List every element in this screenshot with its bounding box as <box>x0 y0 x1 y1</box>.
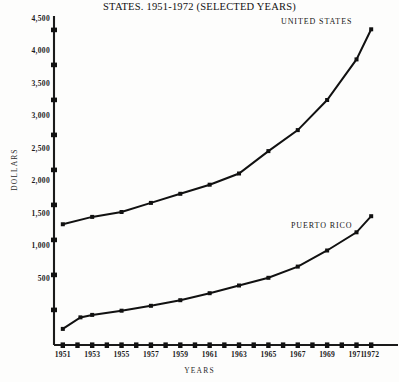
x-tick-mark <box>354 342 358 348</box>
x-tick-label: 1967 <box>283 350 313 359</box>
x-tick-mark <box>163 342 167 348</box>
x-tick-mark <box>281 342 285 348</box>
series-line-puerto-rico <box>63 216 371 329</box>
x-tick-mark <box>119 342 123 348</box>
x-axis-title: YEARS <box>0 366 399 375</box>
data-point-marker <box>369 27 373 31</box>
y-axis-title: DOLLARS <box>10 140 19 200</box>
x-tick-mark <box>149 342 153 348</box>
x-tick-mark <box>237 342 241 348</box>
y-tick-mark <box>51 203 57 208</box>
x-tick-mark <box>340 342 344 348</box>
x-tick-mark <box>90 342 94 348</box>
x-tick-mark <box>222 342 226 348</box>
data-point-marker <box>296 128 300 132</box>
x-tick-label: 1957 <box>136 350 166 359</box>
y-tick-mark <box>51 308 57 313</box>
data-point-marker <box>296 265 300 269</box>
x-tick-mark <box>296 342 300 348</box>
data-point-marker <box>120 210 124 214</box>
data-point-marker <box>208 291 212 295</box>
y-tick-mark <box>51 28 57 33</box>
data-point-marker <box>149 304 153 308</box>
x-tick-label: 1955 <box>107 350 137 359</box>
data-point-marker <box>78 315 82 319</box>
y-tick-mark <box>51 168 57 173</box>
data-point-marker <box>61 327 65 331</box>
x-tick-mark <box>178 342 182 348</box>
series-line-united-states <box>63 29 371 224</box>
data-point-marker <box>90 313 94 317</box>
data-point-marker <box>355 57 359 61</box>
data-point-marker <box>149 201 153 205</box>
y-tick-mark <box>51 63 57 68</box>
series-annotation-puerto-rico: PUERTO RICO <box>291 221 353 230</box>
data-point-marker <box>237 284 241 288</box>
data-point-marker <box>325 249 329 253</box>
series-annotation-united-states: UNITED STATES <box>281 17 352 26</box>
series-markers-united-states <box>61 27 373 226</box>
plot-area <box>0 0 399 382</box>
x-tick-label: 1961 <box>195 350 225 359</box>
x-tick-mark <box>369 342 373 348</box>
x-tick-label: 1953 <box>77 350 107 359</box>
data-point-marker <box>178 192 182 196</box>
data-point-marker <box>61 222 65 226</box>
y-tick-mark <box>51 273 57 278</box>
data-point-marker <box>90 215 94 219</box>
data-point-marker <box>178 298 182 302</box>
x-tick-mark <box>325 342 329 348</box>
data-point-marker <box>208 183 212 187</box>
chart-page: STATES. 1951-1972 (SELECTED YEARS) 4,500… <box>0 0 399 382</box>
x-tick-mark <box>75 342 79 348</box>
x-tick-mark <box>310 342 314 348</box>
data-point-marker <box>266 149 270 153</box>
y-tick-mark <box>51 238 57 243</box>
data-point-marker <box>120 309 124 313</box>
x-tick-label: 1965 <box>253 350 283 359</box>
y-tick-mark <box>51 133 57 138</box>
y-tick-mark <box>51 98 57 103</box>
x-tick-mark <box>252 342 256 348</box>
x-tick-mark <box>193 342 197 348</box>
x-tick-mark <box>61 342 65 348</box>
data-point-marker <box>266 276 270 280</box>
data-point-marker <box>369 214 373 218</box>
x-tick-label: 1969 <box>312 350 342 359</box>
x-tick-mark <box>266 342 270 348</box>
x-tick-mark <box>105 342 109 348</box>
x-tick-label: 1963 <box>224 350 254 359</box>
x-tick-label: 1951 <box>48 350 78 359</box>
data-point-marker <box>237 172 241 176</box>
x-tick-mark <box>207 342 211 348</box>
x-tick-mark <box>134 342 138 348</box>
x-tick-label: 1972 <box>356 350 386 359</box>
data-point-marker <box>355 230 359 234</box>
x-tick-label: 1959 <box>165 350 195 359</box>
data-point-marker <box>325 98 329 102</box>
